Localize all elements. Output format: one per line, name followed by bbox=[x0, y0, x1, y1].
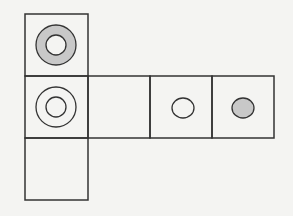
double-circle-inner-icon bbox=[46, 97, 66, 117]
cell-bottom bbox=[25, 138, 88, 200]
double-circle-outer-icon bbox=[36, 87, 76, 127]
gray-circle-icon bbox=[232, 98, 254, 118]
gray-ring-inner-icon bbox=[46, 35, 66, 55]
open-circle-icon bbox=[172, 98, 194, 118]
cube-net-diagram bbox=[0, 0, 293, 216]
cell-middle-left bbox=[25, 76, 88, 138]
cell-middle-2 bbox=[88, 76, 150, 138]
